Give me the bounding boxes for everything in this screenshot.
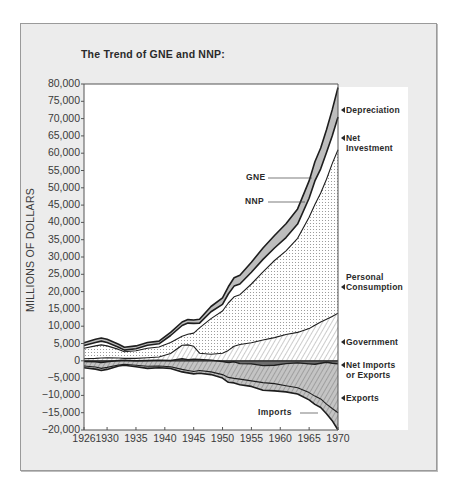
pointer-arrow-icon xyxy=(341,135,345,141)
nnp-label: NNP xyxy=(245,196,264,206)
gne-label: GNE xyxy=(246,172,266,182)
y-tick-label: 0 xyxy=(20,354,80,366)
legend-net-investment: Net Investment xyxy=(341,133,393,153)
y-tick-label: 75,000 xyxy=(20,94,80,106)
legend-personal-consumption: Personal Consumption xyxy=(341,272,403,292)
y-tick-label: 5,000 xyxy=(20,337,80,349)
legend-exports: Exports xyxy=(341,393,379,403)
y-tick-label: 55,000 xyxy=(20,164,80,176)
x-tick-label: 1930 xyxy=(92,432,122,444)
y-tick-label: 65,000 xyxy=(20,129,80,141)
pointer-arrow-icon xyxy=(341,395,345,401)
y-tick-label: 80,000 xyxy=(20,77,80,89)
y-axis-label: MILLIONS OF DOLLARS xyxy=(24,188,36,312)
x-tick-label: 1940 xyxy=(150,432,180,444)
chart-plot xyxy=(0,0,457,493)
x-tick-label: 1970 xyxy=(323,432,353,444)
x-tick-label: 1935 xyxy=(121,432,151,444)
x-tick-label: 1945 xyxy=(179,432,209,444)
x-tick-label: 1965 xyxy=(294,432,324,444)
imports-label: Imports xyxy=(258,407,292,417)
pointer-arrow-icon xyxy=(341,362,345,368)
pointer-arrow-icon xyxy=(341,284,345,290)
y-tick-label: 70,000 xyxy=(20,112,80,124)
legend-net-imports-exports: Net Imports or Exports xyxy=(341,360,395,380)
y-tick-label: 60,000 xyxy=(20,146,80,158)
x-tick-label: 1960 xyxy=(265,432,295,444)
pointer-arrow-icon xyxy=(341,339,345,345)
x-tick-label: 1955 xyxy=(236,432,266,444)
y-tick-label: −10,000 xyxy=(20,388,80,400)
y-tick-label: −15,000 xyxy=(20,406,80,418)
legend-government: Government xyxy=(341,337,398,347)
y-tick-label: 10,000 xyxy=(20,319,80,331)
y-tick-label: −5,000 xyxy=(20,371,80,383)
pointer-arrow-icon xyxy=(341,107,345,113)
x-tick-label: 1950 xyxy=(208,432,238,444)
legend-depreciation: Depreciation xyxy=(341,105,400,115)
